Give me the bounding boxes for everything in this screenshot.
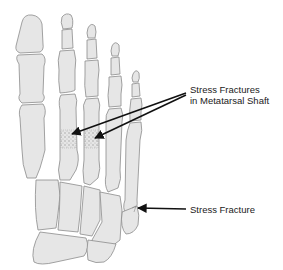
- label-line-1: Stress Fractures: [190, 84, 269, 95]
- foot-skeleton-diagram: [0, 0, 283, 270]
- third-toe: [83, 24, 100, 185]
- fifth-toe: [122, 71, 143, 234]
- fracture-site-3rd-metatarsal: [85, 130, 98, 148]
- label-line-2: in Metatarsal Shaft: [190, 95, 269, 106]
- label-metatarsal-shaft-fractures: Stress Fractures in Metatarsal Shaft: [190, 84, 269, 106]
- arrow-to-5th-metatarsal: [138, 208, 186, 209]
- bones: [16, 14, 142, 264]
- second-toe: [58, 14, 78, 180]
- hallux: [16, 15, 45, 178]
- label-stress-fracture: Stress Fracture: [190, 204, 255, 215]
